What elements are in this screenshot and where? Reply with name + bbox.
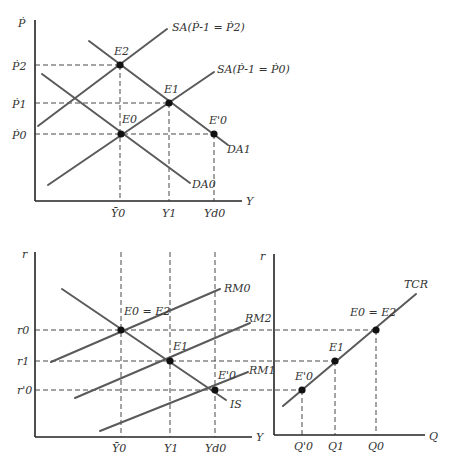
label-sa-high: SA(Ṗ-1 = Ṗ2) <box>172 20 245 34</box>
point-bl-e0-e2 <box>117 326 124 333</box>
tick-p0: Ṗ0 <box>11 128 26 142</box>
sa-low-curve <box>48 72 214 185</box>
sa-high-curve <box>38 29 167 126</box>
bl-y-axis-label: r <box>22 248 28 261</box>
tick-bl-yd0: Yd0 <box>205 442 226 455</box>
rm0-curve <box>51 289 220 362</box>
label-bl-e0-prime: E'0 <box>217 369 236 382</box>
label-rm1: RM1 <box>248 364 276 377</box>
label-e0: E0 <box>121 113 137 126</box>
point-e0-prime <box>210 130 217 137</box>
da1-curve <box>89 41 228 145</box>
point-br-e0-prime <box>298 386 305 393</box>
label-br-e0-e2: E0 = E2 <box>349 306 396 319</box>
label-bl-e0-e2: E0 = E2 <box>123 305 170 318</box>
tick-q0-prime: Q'0 <box>294 440 313 453</box>
tick-bl-ybar0: Ȳ0 <box>112 442 126 455</box>
top-panel: Ṗ Y Ṗ2 Ṗ1 Ṗ0 Ȳ0 Y1 Yd0 SA(Ṗ-1 = Ṗ2) SA(Ṗ… <box>11 16 290 220</box>
label-e1: E1 <box>163 83 179 96</box>
tick-r1: r1 <box>17 355 29 368</box>
top-y-axis-label: Ṗ <box>17 16 26 30</box>
label-tcr: TCR <box>404 278 428 291</box>
economics-diagram: Ṗ Y Ṗ2 Ṗ1 Ṗ0 Ȳ0 Y1 Yd0 SA(Ṗ-1 = Ṗ2) SA(Ṗ… <box>0 0 453 471</box>
tick-p1: Ṗ1 <box>11 97 26 111</box>
tick-r0-prime: r'0 <box>17 384 32 397</box>
tick-ybar0: Ȳ0 <box>111 207 125 220</box>
tick-r0: r0 <box>17 324 29 337</box>
label-da0: DA0 <box>191 178 216 191</box>
label-da1: DA1 <box>226 143 251 156</box>
tick-q0: Q0 <box>368 440 384 453</box>
br-y-axis-label: r <box>260 250 266 263</box>
tick-p2: Ṗ2 <box>11 59 26 73</box>
point-bl-e0-prime <box>211 386 218 393</box>
label-br-e1: E1 <box>328 341 344 354</box>
point-br-e0-e2 <box>372 326 379 333</box>
rm2-curve <box>75 323 250 398</box>
tick-y1: Y1 <box>162 207 176 220</box>
label-bl-e1: E1 <box>172 340 188 353</box>
label-e0-prime: E'0 <box>208 114 227 127</box>
label-rm0: RM0 <box>223 282 251 295</box>
point-bl-e1 <box>166 357 173 364</box>
point-br-e1 <box>331 357 338 364</box>
top-x-axis-label: Y <box>246 195 255 208</box>
tick-q1: Q1 <box>328 440 344 453</box>
label-is: IS <box>229 398 242 411</box>
point-e1 <box>165 99 172 106</box>
br-x-axis-label: Q <box>429 430 438 443</box>
bottom-left-panel: r Y r0 r1 r'0 Ȳ0 Y1 Yd0 RM0 RM2 RM1 IS E… <box>17 248 376 455</box>
tick-yd0: Yd0 <box>204 207 225 220</box>
bottom-right-panel: r Q Q'0 Q1 Q0 TCR E0 = E2 E1 E'0 <box>260 250 438 453</box>
point-e2 <box>116 61 123 68</box>
label-br-e0-prime: E'0 <box>294 370 313 383</box>
label-sa-low: SA(Ṗ-1 = Ṗ0) <box>217 62 290 76</box>
label-e2: E2 <box>113 45 129 58</box>
point-e0 <box>117 130 124 137</box>
tick-bl-y1: Y1 <box>164 442 178 455</box>
bl-x-axis-label: Y <box>256 431 265 444</box>
label-rm2: RM2 <box>244 312 272 325</box>
